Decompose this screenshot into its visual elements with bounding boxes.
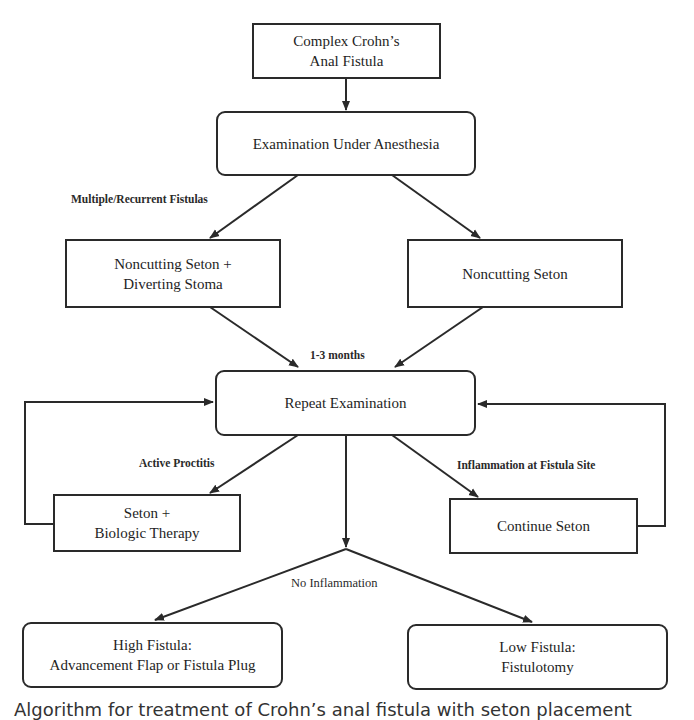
node-examination-under-anesthesia: Examination Under Anesthesia [216, 111, 476, 176]
node-complex-crohns-anal-fistula: Complex Crohn’s Anal Fistula [252, 23, 441, 79]
node-continue-seton: Continue Seton [449, 498, 638, 554]
node-low-fistula: Low Fistula: Fistulotomy [407, 624, 668, 690]
edge-label-active-proctitis: Active Proctitis [139, 457, 214, 469]
node-high-fistula: High Fistula: Advancement Flap or Fistul… [22, 622, 283, 688]
arrow-eua-to-seton [392, 175, 480, 238]
arrow-seton-to-repeat [395, 307, 483, 367]
arrow-seton-stoma-to-repeat [210, 307, 298, 367]
edge-label-interval: 1-3 months [310, 349, 365, 361]
node-repeat-examination: Repeat Examination [215, 370, 476, 436]
edge-label-multiple-recurrent: Multiple/Recurrent Fistulas [71, 193, 208, 205]
edge-label-inflammation-site: Inflammation at Fistula Site [457, 459, 595, 471]
node-noncutting-seton-diverting-stoma: Noncutting Seton + Diverting Stoma [65, 239, 281, 308]
arrow-repeat-to-seton-biologic [210, 435, 298, 493]
node-noncutting-seton: Noncutting Seton [407, 239, 623, 308]
arrow-eua-to-seton-stoma [210, 175, 298, 238]
node-seton-biologic-therapy: Seton + Biologic Therapy [53, 494, 241, 552]
edge-label-no-inflammation: No Inflammation [291, 576, 377, 591]
figure-caption: Algorithm for treatment of Crohn’s anal … [14, 699, 632, 720]
